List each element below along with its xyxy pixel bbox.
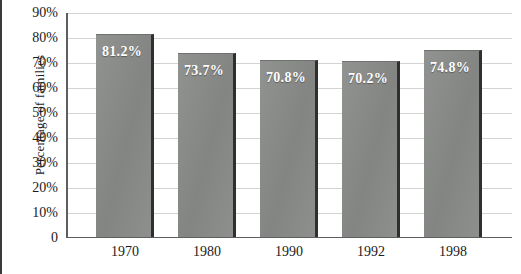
y-tick-label: 30% <box>0 155 58 171</box>
bar-1970[interactable]: 81.2% <box>96 34 154 237</box>
bar-1992[interactable]: 70.2% <box>342 61 400 237</box>
y-tick-label: 90% <box>0 5 58 21</box>
bar-value-label: 81.2% <box>96 44 148 60</box>
bar-chart: Percentage of families 90% 80% 70% 60% 5… <box>0 0 521 274</box>
y-tick-label: 60% <box>0 80 58 96</box>
x-tick-label-1990: 1990 <box>275 244 303 260</box>
y-tick-label: 70% <box>0 55 58 71</box>
x-axis-tick-labels: 1970 1980 1990 1992 1998 <box>66 244 512 270</box>
bar-value-label: 74.8% <box>424 60 476 76</box>
y-tick-label: 20% <box>0 180 58 196</box>
x-tick-label-1992: 1992 <box>357 244 385 260</box>
y-tick-label: 80% <box>0 30 58 46</box>
bar-value-label: 70.2% <box>342 71 394 87</box>
x-tick-label-1970: 1970 <box>111 244 139 260</box>
y-tick-label: 10% <box>0 205 58 221</box>
bar-1980[interactable]: 73.7% <box>178 53 236 237</box>
bar-1990[interactable]: 70.8% <box>260 60 318 237</box>
y-axis-line <box>66 13 68 238</box>
bar-value-label: 70.8% <box>260 70 312 86</box>
bar-value-label: 73.7% <box>178 63 230 79</box>
gridline <box>66 13 512 14</box>
x-tick-label-1980: 1980 <box>193 244 221 260</box>
bar-1998[interactable]: 74.8% <box>424 50 482 237</box>
y-axis-tick-labels: 90% 80% 70% 60% 50% 40% 30% 20% 10% 0 <box>0 13 60 238</box>
x-axis-line <box>66 237 512 239</box>
y-tick-label: 50% <box>0 105 58 121</box>
x-tick-label-1998: 1998 <box>439 244 467 260</box>
plot-area: 81.2% 73.7% 70.8% 70.2% 74.8% <box>66 13 512 238</box>
y-tick-label: 0 <box>0 230 58 246</box>
y-tick-label: 40% <box>0 130 58 146</box>
